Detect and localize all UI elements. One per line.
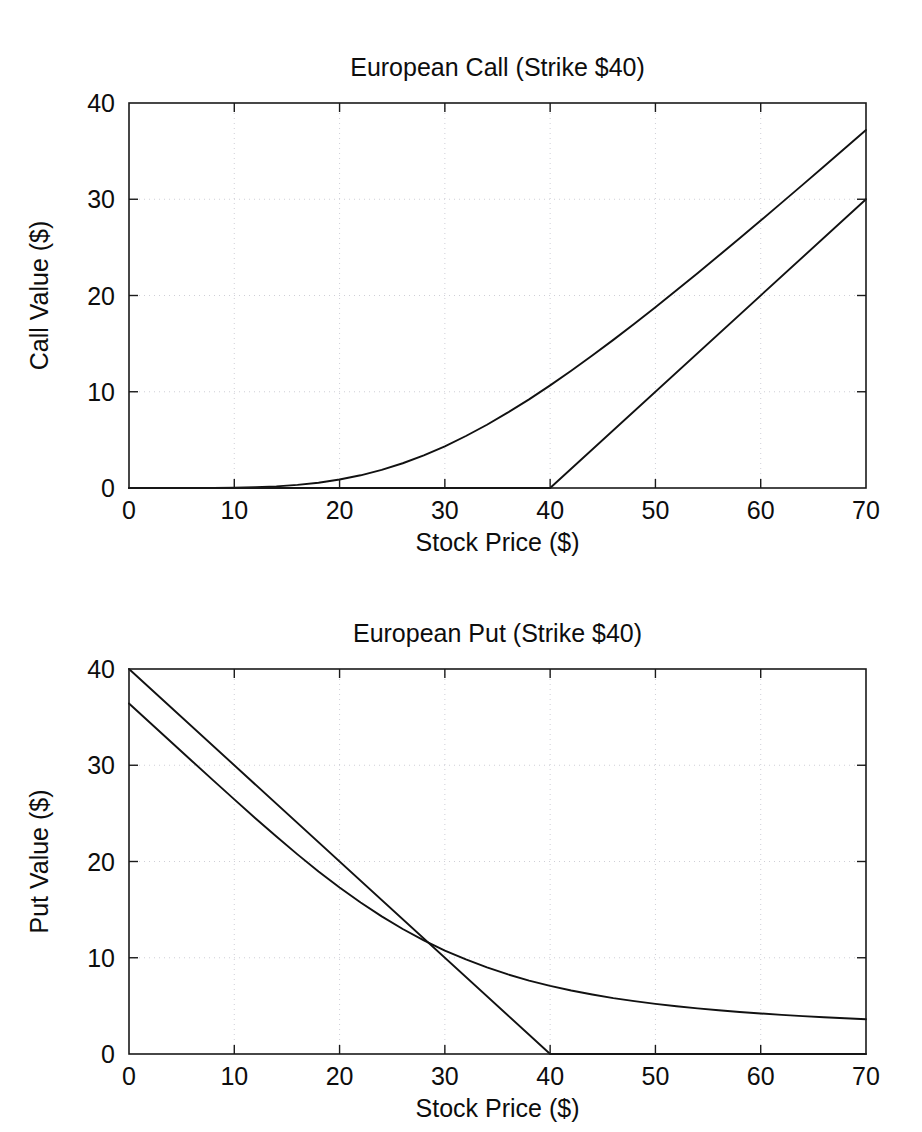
y-axis-label: Call Value ($) <box>25 221 53 371</box>
y-tick-label: 10 <box>87 378 115 406</box>
y-tick-label: 40 <box>87 655 115 683</box>
y-tick-label: 30 <box>87 751 115 779</box>
y-tick-label: 20 <box>87 848 115 876</box>
call-chart-svg: European Call (Strike $40)01020304050607… <box>0 0 922 566</box>
x-tick-label: 50 <box>642 496 670 524</box>
y-tick-label: 10 <box>87 944 115 972</box>
x-tick-label: 10 <box>220 1062 248 1090</box>
y-tick-label: 20 <box>87 282 115 310</box>
x-axis-label: Stock Price ($) <box>416 528 580 556</box>
chart-panel-put: European Put (Strike $40)010203040506070… <box>0 566 922 1132</box>
x-tick-label: 0 <box>122 496 136 524</box>
y-tick-label: 0 <box>101 474 115 502</box>
gridlines <box>129 103 866 488</box>
x-tick-label: 60 <box>747 496 775 524</box>
series-line-2 <box>129 199 866 488</box>
x-tick-label: 70 <box>852 496 880 524</box>
x-tick-label: 30 <box>431 1062 459 1090</box>
x-tick-label: 10 <box>220 496 248 524</box>
y-axis-label: Put Value ($) <box>25 789 53 933</box>
series-line-1 <box>129 130 866 488</box>
figure-canvas: European Call (Strike $40)01020304050607… <box>0 0 922 1132</box>
x-axis-label: Stock Price ($) <box>416 1094 580 1122</box>
x-tick-label: 40 <box>536 1062 564 1090</box>
x-tick-label: 60 <box>747 1062 775 1090</box>
x-tick-label: 30 <box>431 496 459 524</box>
y-tick-label: 40 <box>87 89 115 117</box>
gridlines <box>129 669 866 1054</box>
x-tick-label: 20 <box>326 496 354 524</box>
chart-title: European Put (Strike $40) <box>353 619 642 647</box>
y-tick-label: 30 <box>87 185 115 213</box>
y-tick-label: 0 <box>101 1040 115 1068</box>
x-tick-label: 20 <box>326 1062 354 1090</box>
chart-panel-call: European Call (Strike $40)01020304050607… <box>0 0 922 566</box>
x-tick-label: 50 <box>642 1062 670 1090</box>
x-tick-label: 70 <box>852 1062 880 1090</box>
x-tick-label: 40 <box>536 496 564 524</box>
chart-title: European Call (Strike $40) <box>350 53 645 81</box>
x-tick-label: 0 <box>122 1062 136 1090</box>
put-chart-svg: European Put (Strike $40)010203040506070… <box>0 566 922 1132</box>
